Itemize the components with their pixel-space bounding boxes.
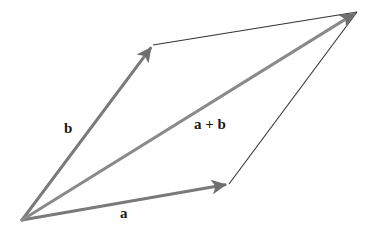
vector-b-arrow	[22, 48, 151, 220]
parallelogram-edge-top	[153, 12, 357, 45]
vector-b-label: b	[64, 121, 72, 136]
vector-diagram	[0, 0, 367, 240]
vector-sum-label: a + b	[194, 117, 226, 132]
vector-sum-arrow	[22, 14, 354, 220]
vector-a-label: a	[120, 206, 128, 221]
parallelogram-edge-right	[229, 12, 357, 184]
